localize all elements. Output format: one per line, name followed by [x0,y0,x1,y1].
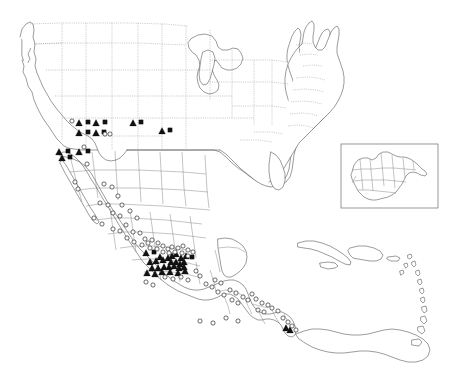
marker-open-circle [256,308,260,312]
marker-filled-square [103,120,107,124]
marker-open-circle [234,291,238,295]
map-canvas [0,0,450,370]
marker-open-circle [111,227,115,231]
marker-open-circle [241,295,245,299]
marker-open-circle [179,275,183,279]
marker-open-circle [82,145,86,149]
marker-open-circle [155,247,159,251]
great-lakes [188,34,243,94]
marker-filled-square [168,128,172,132]
marker-open-circle [276,309,280,313]
marker-open-circle [236,301,240,305]
marker-open-circle [163,275,167,279]
marker-open-circle [92,216,96,220]
marker-filled-square [190,255,194,259]
marker-open-circle [216,290,220,294]
distribution-map-figure [0,0,450,370]
marker-open-circle [270,306,274,310]
marker-open-circle [118,229,122,233]
marker-open-circle [161,244,165,248]
marker-open-circle [146,241,150,245]
marker-open-circle [140,243,144,247]
yucatan-peninsula [218,238,247,277]
marker-open-circle [124,223,128,227]
marker-open-circle [118,214,122,218]
marker-filled-square [68,155,72,159]
marker-open-circle [116,194,120,198]
puerto-rico [387,256,400,261]
marker-open-circle [173,250,177,254]
marker-open-circle [262,310,266,314]
marker-open-circle [198,274,202,278]
marker-open-circle [211,321,215,325]
marker-open-circle [246,298,250,302]
marker-open-circle [266,303,270,307]
marker-open-circle [131,230,135,234]
marker-open-circle [236,319,240,323]
marker-open-circle [85,162,89,166]
marker-open-circle [125,236,129,240]
jamaica [320,262,338,269]
marker-open-circle [167,251,171,255]
marker-open-circle [294,328,298,332]
marker-open-circle [210,285,214,289]
marker-open-circle [111,211,115,215]
marker-open-circle [198,319,202,323]
marker-filled-square [86,130,90,134]
hispaniola [348,246,383,261]
marker-open-circle [176,246,180,250]
marker-open-circle [166,247,170,251]
marker-open-circle [230,298,234,302]
marker-open-circle [186,278,190,282]
marker-open-circle [156,241,160,245]
marker-open-circle [228,288,232,292]
marker-open-circle [132,240,136,244]
marker-open-circle [103,132,107,136]
south-america-north [296,329,430,362]
marker-open-circle [260,301,264,305]
marker-open-circle [100,222,104,226]
marker-open-circle [73,180,77,184]
marker-open-circle [213,278,217,282]
marker-open-circle [186,248,190,252]
marker-open-circle [106,203,110,207]
marker-open-circle [161,250,165,254]
marker-open-circle [180,251,184,255]
marker-open-circle [290,324,294,328]
marker-open-circle [194,269,198,273]
marker-open-circle [143,237,147,241]
marker-open-circle [186,254,190,258]
marker-open-circle [138,231,142,235]
marker-open-circle [70,119,74,123]
marker-open-circle [250,292,254,296]
marker-filled-square [86,120,90,124]
marker-open-circle [286,320,290,324]
marker-open-circle [204,282,208,286]
marker-open-circle [128,209,132,213]
marker-open-circle [110,185,114,189]
marker-open-circle [135,216,139,220]
marker-open-circle [181,244,185,248]
marker-open-circle [151,283,155,287]
marker-open-circle [224,316,228,320]
marker-filled-square [139,120,143,124]
marker-open-circle [98,201,102,205]
marker-open-circle [102,182,106,186]
marker-filled-square [86,149,90,153]
marker-open-circle [222,293,226,297]
marker-open-circle [144,280,148,284]
marker-open-circle [150,238,154,242]
marker-open-circle [120,203,124,207]
marker-open-circle [170,245,174,249]
guatemala-inset [341,144,438,208]
marker-open-circle [108,132,112,136]
marker-open-circle [254,297,258,301]
marker-open-circle [171,277,175,281]
marker-open-circle [148,246,152,250]
marker-open-circle [281,316,285,320]
lesser-antilles [400,254,427,334]
marker-open-circle [219,281,223,285]
cuba [298,241,351,265]
marker-filled-square [66,149,70,153]
marker-filled-triangle [56,149,63,155]
